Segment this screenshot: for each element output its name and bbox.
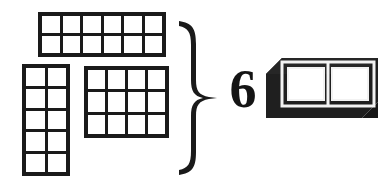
grid-cell (83, 16, 101, 33)
grid-cell (148, 115, 165, 134)
grid-cell (48, 132, 67, 150)
grid-cell (42, 36, 60, 53)
grid-cell (104, 16, 122, 33)
grid-cell (26, 89, 45, 107)
grid-cell (145, 16, 163, 33)
figure-canvas: 6 (0, 0, 388, 191)
grid-cell (124, 16, 142, 33)
grid-cell (42, 16, 60, 33)
grid-cell (148, 70, 165, 89)
grid-cell (124, 36, 142, 53)
grid-cell (26, 154, 45, 172)
grid-cell (26, 111, 45, 129)
grid-cell (128, 70, 145, 89)
grid-cell (128, 115, 145, 134)
grid-cell (83, 36, 101, 53)
grid-cell (148, 92, 165, 111)
grid-cell (63, 16, 81, 33)
grid-cell (88, 70, 105, 89)
curly-brace-icon (176, 18, 220, 178)
grid-cell (26, 68, 45, 86)
grid-cell (108, 92, 125, 111)
grid-cell (128, 92, 145, 111)
grid-top-array (38, 12, 166, 57)
grid-cell (145, 36, 163, 53)
grid-middle-array (84, 66, 169, 138)
grid-cell (108, 70, 125, 89)
grid-cell (48, 68, 67, 86)
grid-cell (48, 111, 67, 129)
grid-cell (26, 132, 45, 150)
grid-cell (88, 115, 105, 134)
grid-cell (48, 154, 67, 172)
grid-cell (104, 36, 122, 53)
grid-left-array (22, 64, 70, 176)
grid-cell (63, 36, 81, 53)
block-cell-left (288, 68, 324, 100)
block-cell-right (332, 68, 368, 100)
grid-cell (48, 89, 67, 107)
grid-cell (88, 92, 105, 111)
multiplier-numeral: 6 (226, 59, 260, 119)
unit-block-3d (264, 56, 380, 120)
grid-cell (108, 115, 125, 134)
